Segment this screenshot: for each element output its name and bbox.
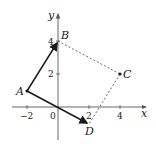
y-tick-4: 4 xyxy=(48,37,54,47)
point-c xyxy=(118,72,121,75)
point-a xyxy=(25,89,28,92)
x-tick-4: 4 xyxy=(117,111,123,121)
x-tick-neg2: −2 xyxy=(20,111,33,121)
point-b-label: B xyxy=(60,29,69,42)
dashed-side-bc xyxy=(58,41,120,74)
origin-label: 0 xyxy=(50,111,56,121)
point-d-label: D xyxy=(84,125,94,138)
x-axis-label: x xyxy=(141,107,148,120)
diagram-canvas: −2 0 2 4 2 4 x y A B C D xyxy=(0,0,156,147)
vector-ab xyxy=(27,43,57,91)
y-tick-2: 2 xyxy=(48,69,54,79)
x-tick-2: 2 xyxy=(86,111,92,121)
dashed-side-cd xyxy=(89,74,120,124)
y-axis-label: y xyxy=(47,9,55,22)
point-a-label: A xyxy=(15,85,24,98)
point-c-label: C xyxy=(123,68,132,81)
